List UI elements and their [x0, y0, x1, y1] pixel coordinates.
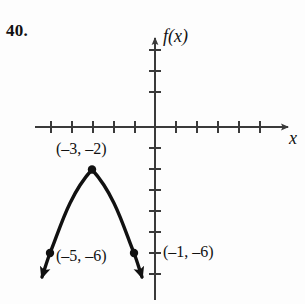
vertex-point-marker [88, 165, 96, 173]
exercise-figure: 40. [0, 0, 305, 304]
right-point-label: (–1, –6) [163, 243, 214, 261]
x-axis [35, 121, 288, 133]
x-axis-label: x [289, 128, 297, 149]
left-point-marker [46, 249, 54, 257]
coordinate-graph [0, 0, 305, 304]
right-point-marker [130, 249, 138, 257]
left-point-label: (–5, –6) [56, 247, 107, 265]
vertex-point-label: (–3, –2) [56, 140, 107, 158]
plotted-points [46, 165, 138, 257]
y-axis [149, 38, 161, 300]
y-axis-label: f(x) [163, 26, 188, 47]
